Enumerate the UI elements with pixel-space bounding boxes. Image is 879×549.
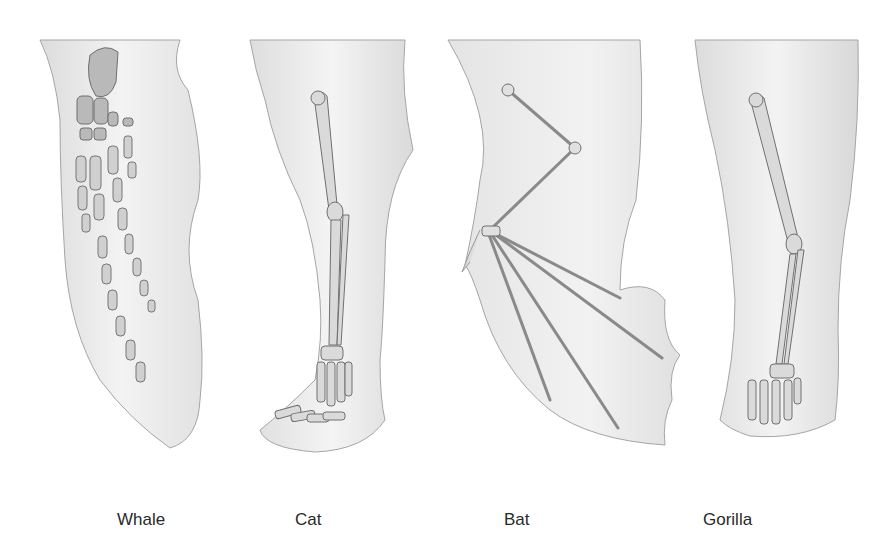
label-cat: Cat [295, 510, 321, 530]
whale-flipper-illustration [30, 0, 230, 460]
label-whale: Whale [117, 510, 165, 530]
gorilla-arm-illustration [690, 0, 870, 470]
cat-forelimb-illustration [245, 0, 425, 470]
label-gorilla: Gorilla [703, 510, 752, 530]
bat-wing-illustration [440, 0, 680, 470]
label-bat: Bat [504, 510, 530, 530]
